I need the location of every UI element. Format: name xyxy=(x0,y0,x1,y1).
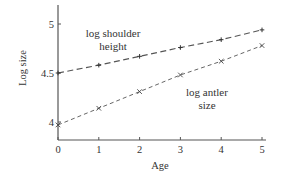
plus-marker xyxy=(260,28,265,33)
annotation-antler-line1: log antler xyxy=(186,86,228,98)
annotation-antler-line2: size xyxy=(198,99,215,111)
labels: Log size Age log shoulder height log ant… xyxy=(17,27,228,171)
axes: 01234544.55 xyxy=(41,5,266,155)
chart: 01234544.55 Log size Age log shoulder he… xyxy=(0,0,283,178)
annotation-shoulder-line1: log shoulder xyxy=(86,27,141,39)
x-tick-label: 5 xyxy=(259,144,264,155)
plus-marker xyxy=(178,45,183,50)
y-tick-label: 4.5 xyxy=(41,68,54,79)
x-tick-label: 2 xyxy=(137,144,142,155)
x-marker xyxy=(97,106,102,111)
x-marker xyxy=(178,73,183,78)
x-tick-label: 4 xyxy=(219,144,225,155)
x-tick-label: 1 xyxy=(96,144,101,155)
x-tick-label: 3 xyxy=(178,144,183,155)
y-tick-label: 5 xyxy=(49,19,54,30)
series-line xyxy=(58,46,262,125)
plus-marker xyxy=(97,63,102,68)
annotation-shoulder-line2: height xyxy=(99,40,127,52)
x-tick-label: 0 xyxy=(55,144,60,155)
y-tick-label: 4 xyxy=(49,117,55,128)
x-axis-label: Age xyxy=(151,160,169,171)
x-marker xyxy=(137,89,142,94)
series-antler-size xyxy=(56,43,265,127)
y-axis-label: Log size xyxy=(17,50,28,86)
series-layer xyxy=(56,28,265,128)
plus-marker xyxy=(56,71,61,76)
x-marker xyxy=(260,43,265,48)
x-marker xyxy=(219,59,224,64)
plus-marker xyxy=(219,37,224,42)
plus-marker xyxy=(137,54,142,59)
